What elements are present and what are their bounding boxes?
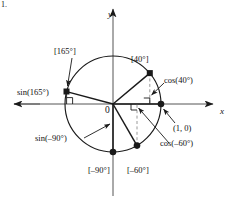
leader-sin-neg90: [84, 124, 110, 138]
ray-165: [67, 92, 113, 104]
origin-label: 0: [105, 106, 110, 116]
ray-40: [113, 73, 150, 104]
label-cos-neg60: cos(–60°): [160, 139, 193, 148]
unit-circle-diagram: [0, 0, 228, 203]
point-40: [147, 70, 153, 76]
label-sin-neg90: sin(–90°): [35, 134, 67, 143]
label-angle-neg90: [–90°]: [88, 166, 110, 175]
label-point-one-zero: (1, 0): [173, 124, 191, 133]
right-angle-165: [67, 98, 73, 104]
x-axis-label: x: [220, 107, 224, 116]
right-angle-neg60: [131, 104, 137, 110]
right-angle-40: [144, 98, 150, 104]
figure-number: 1.: [1, 1, 7, 9]
label-angle-165: [165°]: [54, 47, 76, 56]
point-165: [64, 89, 70, 95]
y-axis-label: y: [108, 10, 112, 19]
point-one-zero: [158, 101, 165, 108]
axis-group: [14, 9, 213, 196]
point-neg60: [134, 142, 141, 149]
leader-point-one-zero: [164, 109, 176, 123]
leader-165-label: [68, 58, 73, 86]
unit-circle-figure: 1. y x 0 [165°] [40°] [–90°] [–60°] (1, …: [0, 0, 228, 203]
leader-cos40: [152, 83, 165, 95]
leader-arrows: [68, 58, 176, 143]
label-cos-40: cos(40°): [164, 76, 193, 85]
point-neg90: [110, 149, 117, 156]
label-sin-165: sin(165°): [17, 88, 49, 97]
plotted-points: [64, 70, 165, 155]
label-angle-40: [40°]: [131, 55, 149, 64]
label-angle-neg60: [–60°]: [127, 166, 149, 175]
